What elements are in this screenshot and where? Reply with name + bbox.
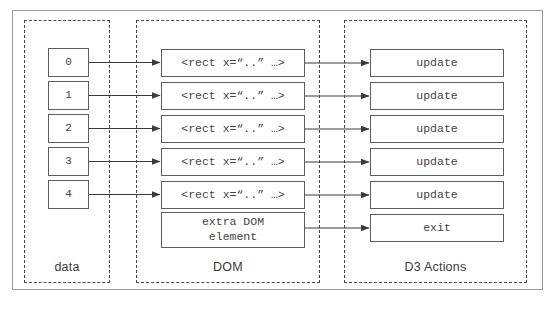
group-label-dom: DOM (137, 260, 319, 274)
data-node: 2 (48, 114, 89, 143)
dom-node: <rect x=“..” …> (161, 181, 305, 209)
data-node: 0 (48, 48, 89, 77)
d3-action-node: update (370, 181, 504, 209)
d3-action-node: update (370, 148, 504, 176)
dom-node: <rect x=“..” …> (161, 49, 305, 77)
data-node: 1 (48, 81, 89, 110)
d3-action-node: update (370, 115, 504, 143)
dom-node: <rect x=“..” …> (161, 148, 305, 176)
dom-node: <rect x=“..” …> (161, 115, 305, 143)
group-label-d3: D3 Actions (345, 260, 526, 274)
group-label-data: data (25, 260, 109, 274)
dom-node-extra: extra DOM element (161, 212, 305, 248)
diagram-canvas: data DOM D3 Actions 0 1 2 3 4 <rect x=“.… (0, 0, 557, 310)
d3-action-node: update (370, 82, 504, 110)
d3-action-node: update (370, 49, 504, 77)
d3-action-node-exit: exit (370, 214, 504, 242)
dom-node: <rect x=“..” …> (161, 82, 305, 110)
data-node: 4 (48, 180, 89, 209)
data-node: 3 (48, 147, 89, 176)
